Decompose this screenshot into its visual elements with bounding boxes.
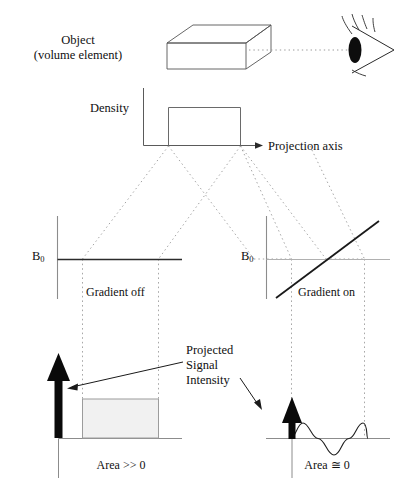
projection-fan-lines [83,146,365,259]
thick-up-arrow-icon [47,353,70,438]
b0-label-right: B0 [241,249,254,264]
b0-right-subscript: 0 [249,254,253,264]
b0-label-left: B0 [32,249,45,264]
gradient-off-label: Gradient off [86,285,145,299]
gradient-on-label: Gradient on [298,285,355,299]
area-left-label: Area >> 0 [66,458,176,472]
eye-icon [342,14,394,76]
thick-up-arrow-small-icon [282,397,302,439]
diagram-canvas: Object(volume element) Density Projectio… [0,0,414,499]
3d-box-icon [167,25,271,69]
object-label: Object(volume element) [8,33,148,63]
area-right-label: Area ≅ 0 [272,458,382,472]
projected-signal-label: ProjectedSignalIntensity [186,343,233,387]
density-label: Density [90,101,129,116]
signal-area-rect [83,399,159,438]
right-arrow-icon [255,142,263,149]
projection-axis-label: Projection axis [268,139,343,154]
diagram-graphics [0,0,414,499]
density-plot [144,88,264,149]
b0-left-subscript: 0 [40,254,44,264]
